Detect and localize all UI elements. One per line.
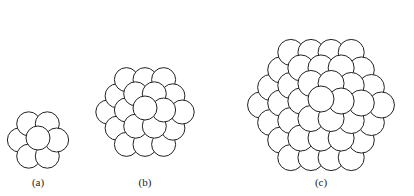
label-c: (c) [306,176,336,188]
cluster-diagram [0,0,414,196]
label-a: (a) [23,176,53,188]
label-b: (b) [130,176,160,188]
